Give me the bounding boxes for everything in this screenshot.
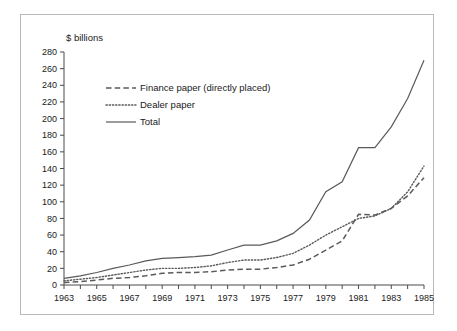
x-axis-tick-label: 1985 (414, 293, 434, 303)
legend-label: Total (140, 116, 160, 127)
y-axis-tick-label: 280 (42, 47, 57, 57)
x-axis-tick-label: 1979 (316, 293, 336, 303)
y-axis-tick-label: 200 (42, 114, 57, 124)
chart-figure: $ billions020406080100120140160180200220… (0, 0, 457, 331)
y-axis-tick-label: 40 (47, 247, 57, 257)
y-axis-tick-label: 0 (52, 280, 57, 290)
y-axis-tick-label: 180 (42, 130, 57, 140)
x-axis-tick-label: 1975 (250, 293, 270, 303)
y-axis-tick-label: 120 (42, 180, 57, 190)
y-axis-tick-label: 20 (47, 264, 57, 274)
line-chart: $ billions020406080100120140160180200220… (0, 0, 457, 331)
x-axis-tick-label: 1983 (381, 293, 401, 303)
legend-label: Dealer paper (140, 99, 195, 110)
y-axis-tick-label: 140 (42, 164, 57, 174)
y-axis-tick-label: 260 (42, 64, 57, 74)
legend-label: Finance paper (directly placed) (140, 82, 270, 93)
y-axis-tick-label: 100 (42, 197, 57, 207)
y-axis-tick-label: 220 (42, 97, 57, 107)
x-axis-tick-label: 1967 (119, 293, 139, 303)
x-axis-tick-label: 1963 (54, 293, 74, 303)
series-line-dealer-paper (64, 166, 424, 281)
x-axis-tick-label: 1977 (283, 293, 303, 303)
y-axis-tick-label: 160 (42, 147, 57, 157)
y-axis-tick-label: 80 (47, 214, 57, 224)
x-axis-tick-label: 1973 (218, 293, 238, 303)
x-axis-tick-label: 1981 (349, 293, 369, 303)
x-axis-tick-label: 1965 (87, 293, 107, 303)
y-axis-title: $ billions (66, 32, 103, 43)
x-axis-tick-label: 1969 (152, 293, 172, 303)
y-axis-tick-label: 60 (47, 230, 57, 240)
x-axis-tick-label: 1971 (185, 293, 205, 303)
y-axis-tick-label: 240 (42, 80, 57, 90)
